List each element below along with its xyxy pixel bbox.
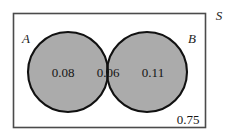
region-label-intersection: 0.06 bbox=[97, 65, 120, 80]
venn-diagram-figure: A B S 0.08 0.06 0.11 0.75 bbox=[0, 0, 235, 139]
set-a-label: A bbox=[21, 31, 30, 46]
set-b-label: B bbox=[188, 31, 196, 46]
region-label-outside: 0.75 bbox=[177, 112, 200, 127]
universe-label: S bbox=[216, 8, 223, 23]
region-label-a-only: 0.08 bbox=[52, 65, 75, 80]
venn-diagram-canvas: A B S 0.08 0.06 0.11 0.75 bbox=[0, 0, 235, 139]
region-label-b-only: 0.11 bbox=[142, 65, 164, 80]
